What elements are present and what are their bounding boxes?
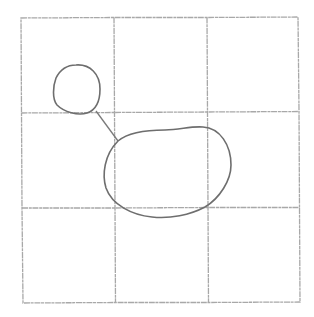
large-blob-shape xyxy=(104,127,231,218)
grid-horizontal-line-1 xyxy=(22,112,300,114)
small-circle-shape xyxy=(54,65,101,114)
diagram-canvas xyxy=(0,0,314,317)
grid-border xyxy=(21,17,300,303)
grid-vertical-line-1 xyxy=(114,18,116,303)
sketch-svg xyxy=(0,0,314,317)
grid-horizontal-line-2 xyxy=(22,208,300,209)
grid-vertical-line-2 xyxy=(207,18,209,303)
